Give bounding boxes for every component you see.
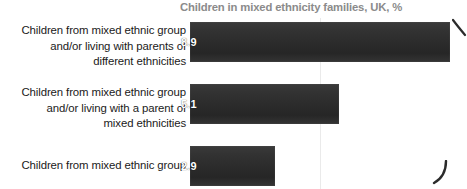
bar-chart: Children in mixed ethnicity families, UK… [0, 0, 467, 189]
plot-area: 8.9 5.1 2.9 [190, 18, 467, 189]
bar-value-3: 2.9 [181, 146, 266, 186]
category-label-2-line-1: Children from mixed ethnic group [0, 85, 186, 101]
category-label-1-line-3: different ethnicities [0, 54, 186, 70]
chart-title: Children in mixed ethnicity families, UK… [180, 0, 467, 15]
category-label-3: Children from mixed ethnic group [0, 158, 186, 174]
bar-value-1: 8.9 [181, 22, 441, 62]
bar-row-2: 5.1 [190, 84, 339, 124]
category-label-3-line-1: Children from mixed ethnic group [0, 158, 186, 174]
category-label-2-line-3: mixed ethnicities [0, 116, 186, 132]
category-label-2: Children from mixed ethnic group and/or … [0, 85, 186, 132]
category-label-1: Children from mixed ethnic group and/or … [0, 23, 186, 70]
bar-value-2: 5.1 [181, 84, 330, 124]
bar-row-3: 2.9 [190, 146, 275, 186]
bar-row-1: 8.9 [190, 22, 450, 62]
category-label-1-line-2: and/or living with parents of [0, 39, 186, 55]
category-label-2-line-2: and/or living with a parent of [0, 101, 186, 117]
category-label-1-line-1: Children from mixed ethnic group [0, 23, 186, 39]
